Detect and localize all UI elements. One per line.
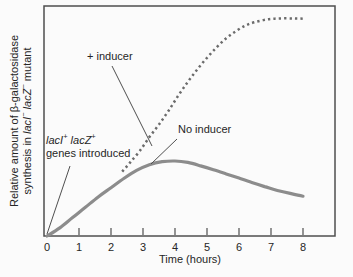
x-tick-label: 6 [236, 241, 242, 253]
plot-frame [44, 6, 335, 236]
x-tick-label: 3 [140, 241, 146, 253]
x-tick-label: 7 [268, 241, 274, 253]
plus-inducer-curve [122, 18, 303, 171]
y-axis-label: Relative amount of β-galactosidase synth… [8, 0, 34, 251]
x-tick-label: 2 [108, 241, 114, 253]
x-axis-ticks [79, 228, 303, 235]
x-tick-label: 4 [172, 241, 178, 253]
no-inducer-curve [47, 161, 303, 236]
annotation-plus-inducer: + inducer [87, 50, 133, 63]
annotation-genes-line1: lacI+ lacZ+ [46, 134, 130, 147]
y-axis-label-line1: Relative amount of β-galactosidase [8, 0, 21, 251]
annotation-no-inducer: No inducer [178, 123, 231, 136]
figure: 012345678 Relative amount of β-galactosi… [0, 0, 353, 277]
x-tick-label: 8 [300, 241, 306, 253]
x-tick-label: 5 [204, 241, 210, 253]
annotation-genes-line2: genes introduced [46, 147, 130, 160]
x-axis-tick-labels: 012345678 [44, 241, 306, 253]
annotation-genes-introduced: lacI+ lacZ+ genes introduced [46, 134, 130, 159]
y-axis-label-line2: synthesis in lacI− lacZ− mutant [21, 0, 34, 251]
x-axis-label: Time (hours) [60, 253, 320, 265]
x-tick-label: 0 [44, 241, 50, 253]
x-tick-label: 1 [76, 241, 82, 253]
